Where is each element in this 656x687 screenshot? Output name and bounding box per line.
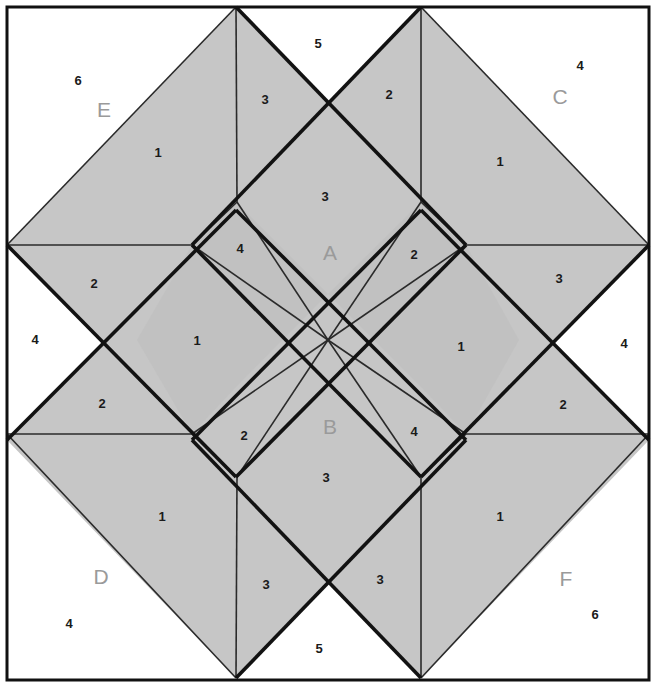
region-label-A: A [323, 241, 337, 264]
piece-number: 5 [315, 641, 322, 656]
piece-number: 3 [376, 572, 383, 587]
piece-number: 4 [65, 616, 73, 631]
piece-number: 2 [410, 247, 417, 262]
piece-number: 6 [591, 607, 598, 622]
region-label-C: C [552, 85, 567, 108]
piece-number: 2 [98, 396, 105, 411]
piece-number: 3 [322, 470, 329, 485]
piece-number: 2 [559, 397, 566, 412]
piece-number: 2 [240, 428, 247, 443]
piece-number: 1 [158, 509, 165, 524]
piece-number: 4 [410, 424, 418, 439]
piece-number: 1 [457, 339, 464, 354]
region-label-D: D [93, 565, 108, 588]
line-vert-bottom-left [236, 477, 237, 678]
piece-number: 3 [555, 271, 562, 286]
region-label-E: E [97, 98, 111, 121]
piece-number: 2 [385, 87, 392, 102]
piece-number: 5 [314, 36, 321, 51]
piece-number: 1 [154, 145, 161, 160]
geometric-dissection-figure: A B C D E F 1 3 5 6 2 1 4 3 4 2 2 3 4 1 … [0, 0, 656, 687]
diagram-canvas: A B C D E F 1 3 5 6 2 1 4 3 4 2 2 3 4 1 … [0, 0, 656, 687]
piece-number: 2 [90, 276, 97, 291]
line-vert-top-left [236, 7, 237, 202]
piece-number: 4 [620, 336, 628, 351]
piece-number: 3 [262, 577, 269, 592]
piece-number: 4 [31, 332, 39, 347]
region-label-B: B [323, 415, 337, 438]
piece-number: 1 [496, 154, 503, 169]
piece-number: 1 [193, 333, 200, 348]
piece-number: 3 [321, 189, 328, 204]
piece-number: 1 [496, 509, 503, 524]
piece-number: 4 [576, 58, 584, 73]
piece-number: 3 [261, 92, 268, 107]
piece-number: 6 [74, 73, 81, 88]
region-label-F: F [560, 567, 573, 590]
piece-number: 4 [236, 241, 244, 256]
